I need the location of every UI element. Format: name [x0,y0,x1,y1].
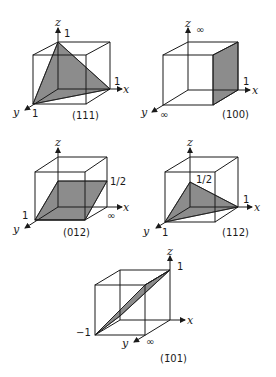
plane-100 [213,42,238,105]
cube-edge [86,42,110,55]
z-intercept-label: 1/2 [196,174,212,185]
z-axis-label: z [54,136,61,149]
miller-index-label: (100) [222,109,249,120]
z-intercept-label: ∞ [196,24,204,35]
y-axis-label: y [140,106,148,119]
x-axis-label: x [252,84,259,97]
x-intercept-label: −1 [76,327,91,338]
panel-111: z 1 x 1 y 1 (111) [12,16,130,121]
x-axis-label: x [254,201,261,214]
z-intercept-label: 1/2 [110,176,126,187]
miller-index-label: (012) [63,227,90,238]
x-intercept-label: 1 [114,76,120,87]
panel-bar1-01: z 1 x −1 y ∞ (1̄01) [76,245,194,364]
cube-edge [95,270,120,285]
cube-edge [163,42,188,55]
z-axis-label: z [184,17,191,30]
cube-edge [215,157,238,172]
cube-edge [35,157,58,172]
y-axis-label: y [12,223,20,236]
cube-edge [165,157,190,172]
plane-bar1-01 [95,270,170,335]
panel-012: z 1/2 x ∞ y 1 (012) [12,136,130,238]
y-axis-arrow [152,90,188,112]
y-intercept-label: 1 [162,227,168,238]
plane-111 [33,42,110,104]
cube-edge [85,157,107,172]
miller-index-label: (1̄01) [160,353,187,364]
x-axis-label: x [187,314,194,327]
x-axis-label: x [123,201,130,214]
miller-index-label: (112) [222,227,249,238]
y-intercept-label: 1 [32,108,38,119]
y-axis-label: y [121,337,129,350]
x-intercept-label: 1 [243,76,249,87]
x-axis-label: x [123,83,130,96]
miller-index-label: (111) [72,110,99,121]
z-intercept-label: 1 [64,28,70,39]
panel-112: z 1/2 x 1 y 1 (112) [142,136,261,238]
x-intercept-label: 1 [243,194,249,205]
y-axis-label: y [12,106,20,119]
panel-100: z ∞ x 1 y ∞ (100) [140,17,259,120]
z-intercept-label: 1 [177,261,183,272]
miller-indices-figure: z 1 x 1 y 1 (111) z ∞ x 1 y ∞ (100) [0,0,276,377]
x-intercept-label: ∞ [107,210,115,221]
y-intercept-label: ∞ [146,336,154,347]
z-axis-label: z [166,245,173,258]
y-intercept-label: ∞ [160,109,168,120]
z-axis-label: z [186,136,193,149]
z-axis-label: z [54,16,61,29]
y-intercept-label: 1 [22,210,28,221]
y-axis-label: y [142,225,150,238]
